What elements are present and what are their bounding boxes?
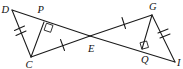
vertex-label-C: C [26,59,34,69]
vertex-label-I: I [176,57,181,68]
right-angle-mark-P [44,23,53,32]
segment-GI [152,15,175,62]
segment-EG [90,15,152,36]
geometry-diagram: D P C E G Q I [0,0,183,69]
diagram-canvas: D P C E G Q I [0,0,183,69]
vertex-label-P: P [37,4,45,15]
tick-EG-1 [122,18,126,29]
segment-CP-altitude [31,22,44,57]
segment-EI [90,36,175,62]
vertex-label-E: E [87,43,95,54]
vertex-label-G: G [149,1,157,12]
vertex-label-Q: Q [141,54,149,65]
vertex-label-D: D [1,4,10,15]
